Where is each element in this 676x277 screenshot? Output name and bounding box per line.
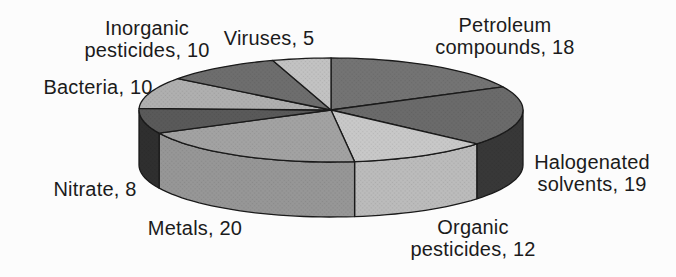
label-halogenated-solvents: Halogenated solvents, 19 (534, 151, 650, 195)
label-petroleum-compounds: Petroleum compounds, 18 (435, 14, 574, 58)
label-organic-pesticides: Organic pesticides, 12 (410, 216, 535, 260)
label-inorganic-pesticides: Inorganic pesticides, 10 (84, 17, 209, 61)
pie-chart-figure: Inorganic pesticides, 10 Viruses, 5 Petr… (0, 0, 676, 277)
label-viruses: Viruses, 5 (224, 27, 315, 49)
label-metals: Metals, 20 (148, 217, 242, 239)
label-bacteria: Bacteria, 10 (43, 76, 152, 98)
label-nitrate: Nitrate, 8 (53, 178, 136, 200)
halftone-overlay (139, 58, 523, 217)
